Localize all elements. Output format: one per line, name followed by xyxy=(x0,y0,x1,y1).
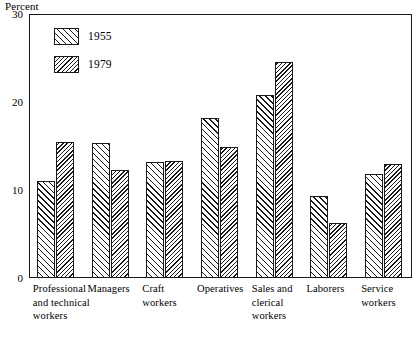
y-tick-label-20: 20 xyxy=(12,97,23,108)
x-axis-label: Operatives xyxy=(197,282,258,296)
x-axis-label: Craft workers xyxy=(142,282,203,309)
legend-swatch-1979-icon xyxy=(54,56,79,73)
bar-1979 xyxy=(111,170,129,278)
bar-1955 xyxy=(201,118,219,278)
x-axis-label: Laborers xyxy=(306,282,367,296)
legend: 1955 1979 xyxy=(54,25,174,81)
x-axis-label: Professional and technical workers xyxy=(33,282,94,323)
y-tick-label-0: 0 xyxy=(18,273,24,284)
x-axis-label: Sales and clerical workers xyxy=(252,282,313,323)
bar-1979 xyxy=(220,147,238,278)
bar-1955 xyxy=(310,196,328,278)
legend-label-1979: 1979 xyxy=(88,58,112,70)
bar-1955 xyxy=(37,181,55,278)
bar-1979 xyxy=(329,223,347,278)
bar-1955 xyxy=(146,162,164,278)
y-tick-label-30: 30 xyxy=(12,9,23,20)
bar-1955 xyxy=(92,143,110,278)
bar-1979 xyxy=(384,164,402,278)
bar-group xyxy=(256,14,293,278)
y-tick-label-10: 10 xyxy=(12,185,23,196)
x-axis-label: Managers xyxy=(88,282,149,296)
bar-group xyxy=(310,14,347,278)
y-axis: 0102030 xyxy=(0,0,29,343)
bar-1955 xyxy=(256,95,274,278)
bar-chart-figure: Percent 0102030 1955 1979 Professional a… xyxy=(0,0,419,343)
legend-label-1955: 1955 xyxy=(88,30,112,42)
bar-1979 xyxy=(56,142,74,278)
bar-1979 xyxy=(275,62,293,278)
legend-item-1955: 1955 xyxy=(54,25,174,47)
x-axis-labels: Professional and technical workersManage… xyxy=(29,282,412,343)
x-axis-label: Service workers xyxy=(361,282,419,309)
bar-1979 xyxy=(165,161,183,278)
legend-item-1979: 1979 xyxy=(54,53,174,75)
bar-1955 xyxy=(365,174,383,278)
legend-swatch-1955-icon xyxy=(54,28,79,45)
bar-group xyxy=(201,14,238,278)
bar-group xyxy=(365,14,402,278)
